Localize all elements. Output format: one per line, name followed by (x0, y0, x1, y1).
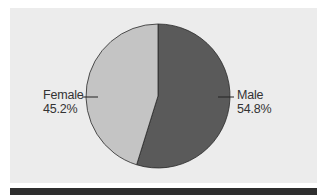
female-label-value: 45.2% (43, 102, 83, 116)
pie-slices (86, 24, 230, 168)
female-label: Female 45.2% (43, 88, 83, 116)
chart-figure: Female 45.2% Male 54.8% (0, 0, 334, 195)
female-label-name: Female (43, 88, 83, 102)
male-label-value: 54.8% (237, 102, 271, 116)
male-label: Male 54.8% (237, 88, 271, 116)
bottom-bar (10, 188, 317, 195)
male-label-name: Male (237, 88, 271, 102)
